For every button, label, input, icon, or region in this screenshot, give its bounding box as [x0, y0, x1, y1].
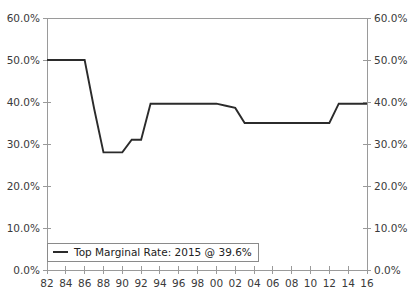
y-axis-right-tick-label: 50.0%: [374, 55, 412, 66]
x-axis-tick-label: 90: [113, 278, 131, 289]
x-axis-tick-label: 08: [283, 278, 301, 289]
series-line: [47, 60, 367, 152]
legend-line-swatch-icon: [53, 251, 68, 253]
chart-container: 0.0%10.0%20.0%30.0%40.0%50.0%60.0% 0.0%1…: [0, 0, 412, 296]
y-axis-right-tick-label: 20.0%: [374, 181, 412, 192]
x-axis-tick-label: 16: [358, 278, 376, 289]
y-axis-right-tick-label: 60.0%: [374, 13, 412, 24]
x-axis-tick-label: 92: [132, 278, 150, 289]
y-axis-left-tick-label: 20.0%: [0, 181, 40, 192]
x-axis-tick-label: 10: [302, 278, 320, 289]
x-axis-tick-label: 00: [207, 278, 225, 289]
x-axis-tick-label: 04: [245, 278, 263, 289]
y-axis-left-tick-label: 50.0%: [0, 55, 40, 66]
y-axis-right-tick-label: 10.0%: [374, 223, 412, 234]
y-axis-left-tick-label: 10.0%: [0, 223, 40, 234]
x-axis-tick-label: 98: [189, 278, 207, 289]
legend-label-top-marginal-rate: Top Marginal Rate: 2015 @ 39.6%: [74, 247, 252, 258]
chart-axes: [43, 18, 371, 274]
y-axis-left-tick-label: 0.0%: [0, 265, 40, 276]
y-axis-right-tick-label: 0.0%: [374, 265, 412, 276]
chart-series-lines: [47, 60, 367, 152]
x-axis-tick-label: 82: [38, 278, 56, 289]
x-axis-tick-label: 12: [320, 278, 338, 289]
y-axis-left-tick-label: 30.0%: [0, 139, 40, 150]
x-axis-tick-label: 88: [94, 278, 112, 289]
x-axis-tick-label: 96: [170, 278, 188, 289]
x-axis-tick-label: 84: [57, 278, 75, 289]
chart-legend: Top Marginal Rate: 2015 @ 39.6%: [47, 243, 259, 262]
y-axis-right-tick-label: 40.0%: [374, 97, 412, 108]
x-axis-tick-label: 14: [339, 278, 357, 289]
y-axis-left-tick-label: 60.0%: [0, 13, 40, 24]
y-axis-right-tick-label: 30.0%: [374, 139, 412, 150]
x-axis-tick-label: 06: [264, 278, 282, 289]
x-axis-tick-label: 02: [226, 278, 244, 289]
y-axis-left-tick-label: 40.0%: [0, 97, 40, 108]
x-axis-tick-label: 86: [76, 278, 94, 289]
x-axis-tick-label: 94: [151, 278, 169, 289]
